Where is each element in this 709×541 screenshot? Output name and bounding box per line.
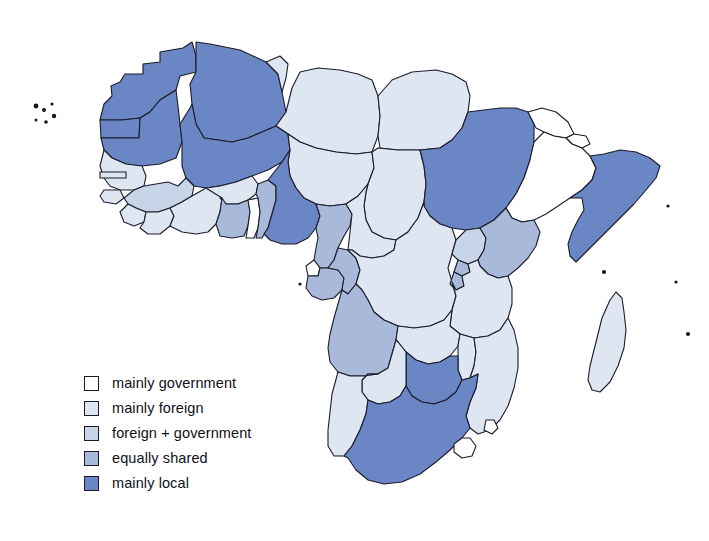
legend-swatch-mainly-foreign	[84, 401, 99, 416]
legend-item-mainly-government[interactable]: mainly government	[84, 371, 334, 396]
legend: mainly government mainly foreign foreign…	[84, 371, 334, 496]
legend-swatch-mainly-local	[84, 476, 99, 491]
legend-swatch-foreign-plus-government	[84, 426, 99, 441]
legend-item-mainly-local[interactable]: mainly local	[84, 471, 334, 496]
legend-item-foreign-plus-government[interactable]: foreign + government	[84, 421, 334, 446]
legend-label-equally-shared: equally shared	[112, 451, 208, 466]
legend-label-mainly-local: mainly local	[112, 476, 189, 491]
country-morocco[interactable]	[100, 42, 196, 120]
island-comoros	[602, 270, 606, 274]
island-cape-verde-1	[34, 104, 39, 109]
island-mauritius	[686, 332, 690, 336]
legend-swatch-equally-shared	[84, 451, 99, 466]
island-sao-tome	[298, 282, 301, 285]
country-algeria[interactable]	[190, 42, 286, 142]
island-seychelles	[666, 204, 669, 207]
country-madagascar[interactable]	[588, 292, 626, 392]
island-cape-verde-3	[50, 102, 53, 105]
island-reunion	[674, 280, 677, 283]
choropleth-map-figure: mainly government mainly foreign foreign…	[0, 0, 709, 541]
legend-item-equally-shared[interactable]: equally shared	[84, 446, 334, 471]
country-western-sahara[interactable]	[100, 118, 140, 138]
island-cape-verde-2	[42, 108, 46, 112]
country-lesotho[interactable]	[454, 438, 476, 458]
legend-label-foreign-plus-government: foreign + government	[112, 426, 251, 441]
country-eritrea[interactable]	[528, 108, 574, 138]
island-cape-verde-6	[35, 119, 38, 122]
island-cape-verde-5	[44, 120, 48, 124]
legend-label-mainly-government: mainly government	[112, 376, 236, 391]
legend-item-mainly-foreign[interactable]: mainly foreign	[84, 396, 334, 421]
island-cape-verde-4	[52, 114, 56, 118]
country-gambia[interactable]	[100, 172, 126, 178]
legend-label-mainly-foreign: mainly foreign	[112, 401, 204, 416]
legend-swatch-mainly-government	[84, 376, 99, 391]
country-guinea-bissau[interactable]	[100, 190, 124, 204]
country-ghana[interactable]	[216, 198, 250, 238]
